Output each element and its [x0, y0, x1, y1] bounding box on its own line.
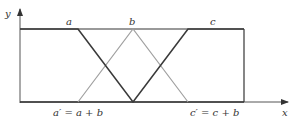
gray-triangle — [78, 29, 188, 102]
label-b: b — [129, 16, 135, 27]
diagram-canvas: y x a b c a′ = a + b c′ = c + b — [0, 0, 298, 123]
label-c: c — [210, 16, 216, 27]
y-axis-label: y — [4, 8, 11, 19]
label-a-prime: a′ = a + b — [53, 107, 103, 118]
label-a: a — [66, 16, 72, 27]
dark-v-shape — [20, 29, 244, 102]
x-axis-label: x — [282, 107, 288, 118]
label-c-prime: c′ = c + b — [190, 107, 239, 118]
